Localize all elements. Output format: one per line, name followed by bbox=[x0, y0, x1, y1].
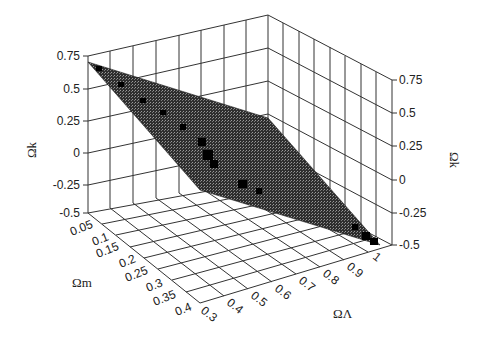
z-tick-left: 0.75 bbox=[57, 49, 81, 63]
y-tick: 0.4 bbox=[224, 295, 246, 317]
y-tick: 0.3 bbox=[198, 303, 220, 325]
surface-plot-3d: 0.75 0.5 0.25 0 -0.25 -0.5 Ωk 0.75 0.5 0… bbox=[0, 0, 479, 341]
y-axis-omega-lambda: 0.3 0.4 0.5 0.6 0.7 0.8 0.9 1 ΩΛ bbox=[198, 249, 384, 325]
y-tick: 1 bbox=[370, 249, 384, 264]
z-tick-left: 0.25 bbox=[57, 114, 81, 128]
y-axis-label: ΩΛ bbox=[333, 306, 353, 321]
z-axis-right: 0.75 0.5 0.25 0 -0.25 -0.5 Ωk bbox=[392, 73, 462, 252]
z-axis-left: 0.75 0.5 0.25 0 -0.25 -0.5 Ωk bbox=[24, 49, 88, 220]
z-tick-left: -0.5 bbox=[59, 206, 80, 220]
y-tick: 0.5 bbox=[248, 288, 270, 310]
surface-mesh bbox=[88, 62, 380, 245]
z-tick-right: -0.5 bbox=[399, 238, 420, 252]
x-tick: 0.4 bbox=[173, 299, 194, 318]
z-tick-right: -0.25 bbox=[399, 206, 427, 220]
z-tick-right: 0.25 bbox=[399, 139, 423, 153]
x-axis-label: Ωm bbox=[72, 275, 92, 290]
z-tick-left: 0.5 bbox=[63, 82, 80, 96]
y-tick: 0.9 bbox=[344, 259, 366, 281]
y-tick: 0.7 bbox=[296, 273, 318, 295]
y-tick: 0.6 bbox=[272, 281, 294, 303]
z-tick-right: 0.75 bbox=[399, 73, 423, 87]
z-axis-label-left: Ωk bbox=[24, 141, 39, 158]
z-tick-left: -0.25 bbox=[53, 178, 81, 192]
z-tick-left: 0 bbox=[73, 146, 80, 160]
z-tick-right: 0.5 bbox=[399, 106, 416, 120]
z-tick-right: 0 bbox=[399, 173, 406, 187]
z-axis-label-right: Ωk bbox=[447, 152, 462, 169]
y-tick: 0.8 bbox=[320, 266, 342, 288]
